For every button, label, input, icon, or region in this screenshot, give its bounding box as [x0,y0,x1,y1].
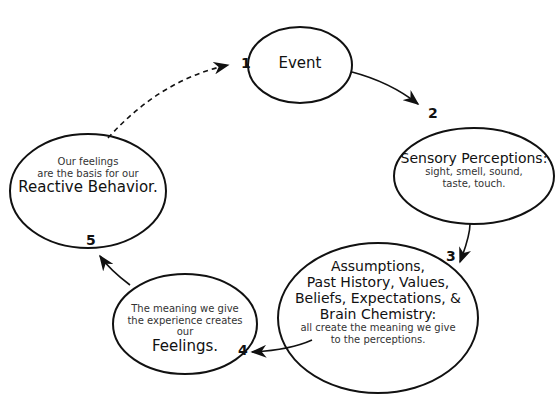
node-3-line-1: all create the meaning we give [285,322,471,334]
node-5-number: 5 [86,232,96,248]
node-4-line-2: the experience creates our [120,315,250,338]
node-2-line-2: taste, touch. [394,178,554,190]
node-5-label: Our feelings are the basis for our React… [14,156,162,196]
node-5-title: Reactive Behavior. [14,179,162,196]
node-2-line-1: sight, smell, sound, [394,166,554,178]
edge-5-to-1-dashed [108,65,228,138]
edge-1-to-2 [352,72,418,104]
node-4-label: The meaning we give the experience creat… [120,303,250,355]
node-4-title: Feelings. [120,338,250,355]
node-3-line-2: to the perceptions. [285,334,471,346]
node-3-title-3: Beliefs, Expectations, & [285,290,471,306]
edge-2-to-3 [460,224,470,262]
node-1-label: Event [248,54,352,72]
node-2-title: Sensory Perceptions: [394,150,554,166]
node-2-label: Sensory Perceptions: sight, smell, sound… [394,150,554,189]
node-2-number: 2 [428,105,438,121]
node-3-title-2: Past History, Values, [285,274,471,290]
node-5-line-1: Our feelings [14,156,162,168]
edge-4-to-5 [100,256,130,285]
node-1-title: Event [279,54,322,72]
node-4-line-1: The meaning we give [120,303,250,315]
node-3-label: Assumptions, Past History, Values, Belie… [285,258,471,345]
node-3-title-1: Assumptions, [285,258,471,274]
node-3-title-4: Brain Chemistry: [285,306,471,322]
